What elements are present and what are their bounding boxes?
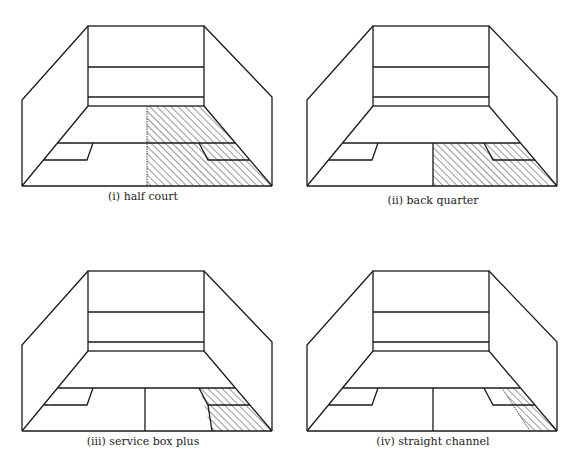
- caption-service-box-plus: (iii) service box plus: [87, 435, 200, 448]
- caption-half-court: (i) half court: [108, 190, 178, 203]
- caption-straight-channel: (iv) straight channel: [376, 435, 489, 448]
- hatched-zone: [199, 388, 272, 431]
- hatched-zone: [147, 106, 272, 186]
- court-panel-service-box-plus: [22, 271, 272, 431]
- hatched-zone: [502, 388, 557, 431]
- court-diagrams: [0, 0, 563, 462]
- court-panel-straight-channel: [307, 271, 557, 431]
- court-panel-back-quarter: [307, 26, 557, 186]
- court-panel-half-court: [22, 26, 272, 186]
- caption-back-quarter: (ii) back quarter: [387, 194, 478, 207]
